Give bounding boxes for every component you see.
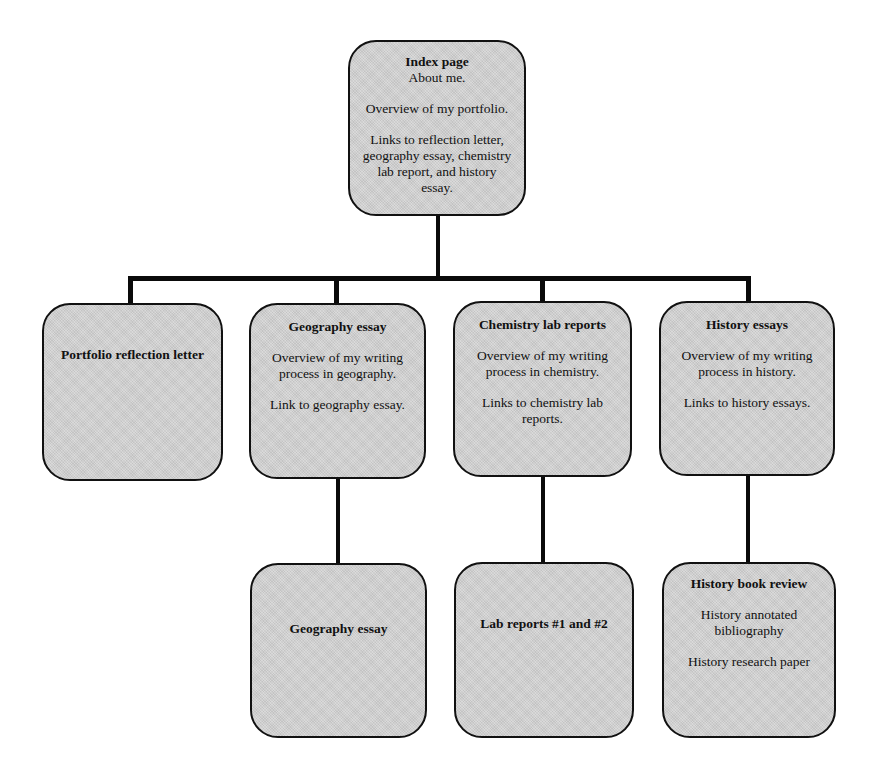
node-line: Overview of my writing process in histor…	[669, 348, 825, 380]
node-chemistry-lab-reports: Chemistry lab reports Overview of my wri…	[453, 301, 632, 477]
connector-history-to-works	[746, 474, 750, 564]
node-line: Link to geography essay.	[259, 397, 416, 413]
node-title: History essays	[669, 317, 825, 333]
node-title: Index page	[358, 54, 516, 70]
node-history-works-page: History book review History annotated bi…	[662, 562, 836, 738]
connector-root-down	[436, 214, 440, 280]
connector-to-history	[746, 276, 751, 303]
node-history-essays: History essays Overview of my writing pr…	[659, 301, 835, 476]
node-line: History annotated bibliography	[672, 607, 826, 639]
connector-to-reflection	[128, 276, 133, 305]
node-line: History research paper	[672, 654, 826, 670]
node-line: Links to chemistry lab reports.	[463, 395, 622, 427]
node-geography-essay: Geography essay Overview of my writing p…	[249, 303, 426, 479]
node-title: History book review	[672, 576, 826, 592]
node-geography-essay-page: Geography essay	[250, 563, 427, 738]
node-line: About me.	[358, 70, 516, 86]
connector-to-chemistry	[540, 276, 545, 303]
connector-horizontal-bar	[128, 276, 751, 281]
node-line: Links to reflection letter, geography es…	[358, 132, 516, 196]
node-title: Portfolio reflection letter	[52, 347, 213, 363]
site-map-diagram: Index page About me. Overview of my port…	[0, 0, 875, 780]
node-title: Chemistry lab reports	[463, 317, 622, 333]
node-title: Lab reports #1 and #2	[464, 616, 624, 632]
node-line: Overview of my portfolio.	[358, 101, 516, 117]
node-title: Geography essay	[259, 319, 416, 335]
node-line: Links to history essays.	[669, 395, 825, 411]
node-line: Overview of my writing process in chemis…	[463, 348, 622, 380]
node-line: Overview of my writing process in geogra…	[259, 350, 416, 382]
connector-to-geography	[334, 276, 339, 305]
node-title: Geography essay	[260, 621, 417, 637]
node-index-page: Index page About me. Overview of my port…	[348, 40, 526, 216]
connector-chemistry-to-labs	[541, 475, 545, 564]
node-portfolio-reflection-letter: Portfolio reflection letter	[42, 303, 223, 481]
connector-geography-to-essay	[336, 476, 340, 564]
node-lab-reports-page: Lab reports #1 and #2	[454, 562, 634, 738]
